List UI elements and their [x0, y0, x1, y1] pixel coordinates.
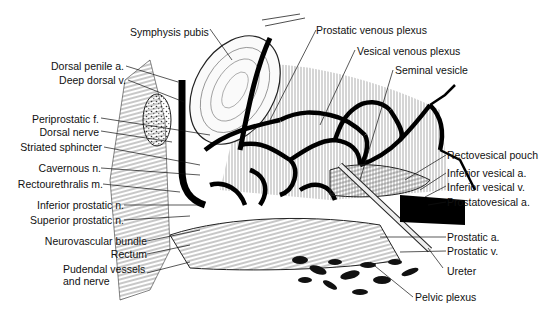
- label-dorsal-nerve: Dorsal nerve: [39, 126, 99, 138]
- label-pelvic-plexus: Pelvic plexus: [415, 291, 476, 303]
- label-prostatic-v: Prostatic v.: [447, 245, 498, 257]
- label-rectovesical-pouch: Rectovesical pouch: [447, 149, 538, 161]
- label-periprostatic-f: Periprostatic f.: [32, 113, 99, 125]
- label-cavernous-n: Cavernous n.: [39, 162, 101, 174]
- label-deep-dorsal-v: Deep dorsal v.: [59, 74, 126, 86]
- label-prostatic-venous-plexus: Prostatic venous plexus: [316, 24, 427, 36]
- label-pudendal-nerve: and nerve: [63, 275, 110, 287]
- label-inferior-prostatic-n: Inferior prostatic n.: [37, 199, 124, 211]
- label-striated-sphincter: Striated sphincter: [20, 141, 102, 153]
- label-pudendal-vessels: Pudendal vessels: [63, 263, 145, 275]
- label-superior-prostatic-n: Superior prostatic n.: [30, 214, 124, 226]
- label-vesical-venous-plexus: Vesical venous plexus: [357, 45, 460, 57]
- label-neurovascular-bundle: Neurovascular bundle: [45, 235, 147, 247]
- label-symphysis-pubis: Symphysis pubis: [130, 26, 209, 38]
- label-dorsal-penile-a: Dorsal penile a.: [51, 60, 124, 72]
- label-prostatovesical-a: Prostatovesical a.: [447, 196, 530, 208]
- label-inferior-vesical-v: Inferior vesical v.: [447, 181, 525, 193]
- label-ureter: Ureter: [447, 265, 476, 277]
- label-inferior-vesical-a: Inferior vesical a.: [447, 167, 526, 179]
- label-seminal-vesicle: Seminal vesicle: [395, 64, 468, 76]
- anatomy-figure: Dorsal penile a. Deep dorsal v. Peripros…: [0, 0, 551, 312]
- label-rectum: Rectum: [111, 248, 147, 260]
- label-rectourethralis-m: Rectourethralis m.: [18, 178, 103, 190]
- label-prostatic-a: Prostatic a.: [447, 231, 500, 243]
